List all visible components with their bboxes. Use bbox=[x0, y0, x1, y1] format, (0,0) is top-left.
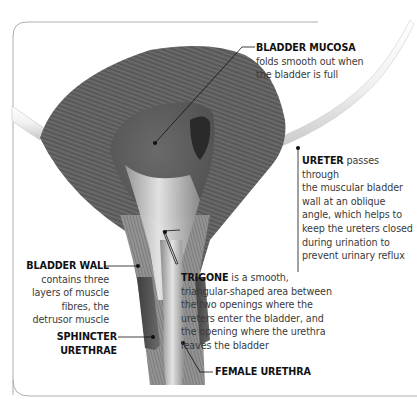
left-ureter-tube bbox=[12, 106, 44, 140]
label-line: leaves the bladder bbox=[181, 339, 332, 353]
label-ureter: URETER passes through the muscular bladd… bbox=[302, 154, 417, 263]
bladder-diagram: BLADDER MUCOSA folds smooth out when the… bbox=[0, 0, 417, 407]
label-line: the two openings where the bbox=[181, 298, 332, 312]
label-title: BLADDER MUCOSA bbox=[256, 41, 364, 55]
label-line: the opening where the urethra bbox=[181, 325, 332, 339]
label-trigone: TRIGONE is a smooth, triangular-shaped a… bbox=[181, 271, 332, 353]
label-line: detrusor muscle bbox=[26, 313, 109, 327]
label-title: BLADDER WALL bbox=[26, 259, 109, 273]
label-line: is a smooth, bbox=[228, 272, 288, 283]
label-line: fibres, the bbox=[26, 300, 109, 314]
label-title: URETER bbox=[302, 155, 344, 166]
right-ureter-tube bbox=[268, 20, 414, 150]
label-title: SPHINCTER URETHRAE bbox=[0, 330, 117, 357]
label-title: FEMALE URETHRA bbox=[215, 365, 311, 379]
label-line: triangular-shaped area between bbox=[181, 285, 332, 299]
label-sphincter-urethrae: SPHINCTER URETHRAE bbox=[0, 330, 117, 357]
label-line: angle, which helps to bbox=[302, 208, 417, 222]
label-title: TRIGONE bbox=[181, 272, 228, 283]
label-line: during urination to bbox=[302, 236, 417, 250]
label-line: the muscular bladder bbox=[302, 181, 417, 195]
label-line: keep the ureters closed bbox=[302, 222, 417, 236]
label-line: folds smooth out when bbox=[256, 55, 364, 69]
label-line: prevent urinary reflux bbox=[302, 249, 417, 263]
label-bladder-mucosa: BLADDER MUCOSA folds smooth out when the… bbox=[256, 41, 364, 82]
label-bladder-wall: BLADDER WALL contains three layers of mu… bbox=[26, 259, 109, 327]
label-female-urethra: FEMALE URETHRA bbox=[215, 365, 311, 379]
label-line: the bladder is full bbox=[256, 68, 364, 82]
frame-bottom bbox=[13, 380, 417, 396]
label-line: wall at an oblique bbox=[302, 195, 417, 209]
label-line: ureters enter the bladder, and bbox=[181, 312, 332, 326]
label-line: layers of muscle bbox=[26, 286, 109, 300]
label-line: contains three bbox=[26, 273, 109, 287]
